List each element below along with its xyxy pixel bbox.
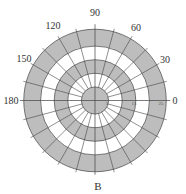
angle-label-0: 0: [173, 95, 178, 106]
radial-label-25: 25: [159, 101, 165, 106]
angle-label-90: 90: [90, 7, 100, 18]
bottom-label: B: [94, 180, 101, 192]
angle-label-60: 60: [131, 22, 141, 33]
angle-label-120: 120: [46, 20, 61, 31]
radial-label-15: 15: [132, 101, 138, 106]
angle-label-150: 150: [17, 53, 32, 64]
polar-diagram: 90 120 60 150 30 180 0 5 15 25 B: [0, 0, 186, 194]
angle-label-30: 30: [160, 54, 170, 65]
angle-label-180: 180: [4, 95, 19, 106]
